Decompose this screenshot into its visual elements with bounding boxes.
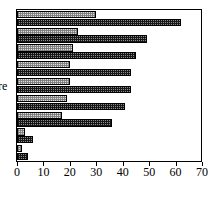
bar-dark [17,52,136,59]
y-axis-title: re [0,80,7,93]
bar-dark [17,86,131,93]
bar-dark [17,19,181,26]
x-tick-label: 40 [111,166,135,179]
bar-light [17,128,25,135]
bar-dark [17,153,28,160]
bar-group [17,94,202,111]
bar-light [17,28,78,35]
bar-chart: re 010203040506070 [0,0,215,197]
bar-group [17,111,202,128]
bar-group [17,127,202,144]
x-tick-label: 60 [164,166,188,179]
bar-group [17,144,202,161]
bar-light [17,78,70,85]
bar-dark [17,103,125,110]
bar-light [17,95,67,102]
bar-group [17,44,202,61]
x-tick-label: 50 [137,166,161,179]
bar-light [17,11,96,18]
x-tick-label: 0 [5,166,29,179]
bar-light [17,61,70,68]
bar-group [17,77,202,94]
bars-layer [17,10,202,161]
bar-group [17,27,202,44]
bar-light [17,44,73,51]
x-tick-label: 70 [190,166,214,179]
bar-light [17,145,22,152]
bar-dark [17,35,147,42]
bar-light [17,112,62,119]
bar-dark [17,69,131,76]
x-tick-label: 30 [84,166,108,179]
x-tick-label: 20 [58,166,82,179]
bar-dark [17,119,112,126]
bar-group [17,60,202,77]
x-tick-label: 10 [31,166,55,179]
bar-group [17,10,202,27]
bar-dark [17,136,33,143]
